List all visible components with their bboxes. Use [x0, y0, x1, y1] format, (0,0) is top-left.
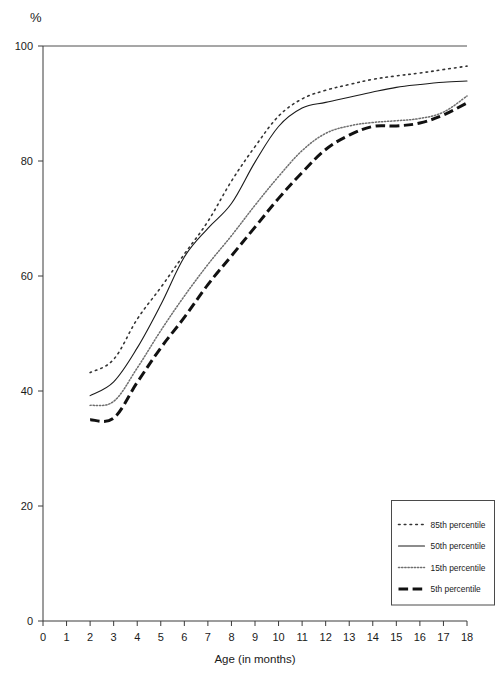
legend-label-2: 15th percentile [431, 563, 486, 573]
x-tick-label: 1 [63, 631, 69, 643]
x-tick-label: 7 [205, 631, 211, 643]
x-tick-label: 11 [296, 631, 307, 643]
x-tick-label: 10 [272, 631, 284, 643]
series-line-1 [90, 81, 467, 396]
legend-label-1: 50th percentile [431, 541, 486, 551]
x-tick-label: 14 [367, 631, 379, 643]
y-tick-label: 0 [27, 615, 33, 627]
chart-container: % 020406080100 0123456789101112131415161… [0, 0, 496, 690]
y-tick-label: 20 [21, 500, 33, 512]
y-tick-label: 100 [15, 40, 33, 52]
y-tick-label: 40 [21, 385, 33, 397]
x-axis-title: Age (in months) [214, 653, 295, 665]
x-tick-label: 6 [181, 631, 187, 643]
x-tick-label: 13 [343, 631, 355, 643]
x-tick-label: 5 [158, 631, 164, 643]
x-tick-label: 8 [228, 631, 234, 643]
x-tick-label: 16 [414, 631, 426, 643]
data-series-group [90, 66, 467, 421]
chart-legend: 85th percentile50th percentile15th perce… [392, 501, 495, 606]
x-tick-label: 4 [134, 631, 140, 643]
x-tick-label: 12 [320, 631, 332, 643]
legend-label-3: 5th percentile [431, 584, 482, 594]
series-line-3 [90, 103, 467, 422]
legend-label-0: 85th percentile [431, 520, 486, 530]
series-line-2 [90, 96, 467, 406]
series-line-0 [90, 66, 467, 372]
chart-plot: 020406080100 012345678910111213141516171… [0, 0, 496, 690]
x-axis: 0123456789101112131415161718 [40, 621, 473, 643]
y-tick-label: 60 [21, 270, 33, 282]
x-tick-label: 9 [252, 631, 258, 643]
x-tick-label: 3 [111, 631, 117, 643]
x-tick-label: 15 [390, 631, 402, 643]
x-axis-title-label: Age (in months) [214, 653, 295, 665]
y-tick-label: 80 [21, 155, 33, 167]
x-tick-label: 0 [40, 631, 46, 643]
x-tick-label: 2 [87, 631, 93, 643]
x-tick-label: 18 [461, 631, 473, 643]
x-tick-label: 17 [437, 631, 449, 643]
